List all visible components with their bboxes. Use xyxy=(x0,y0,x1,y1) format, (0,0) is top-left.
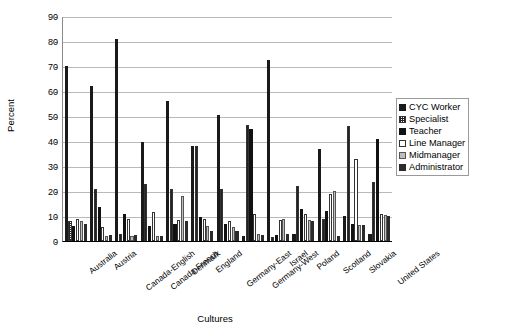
legend-swatch-icon xyxy=(399,140,406,147)
bar xyxy=(206,226,209,241)
plot-area xyxy=(62,17,392,242)
y-axis-title: Percent xyxy=(5,99,16,132)
bar xyxy=(80,221,83,241)
y-tick-mark xyxy=(55,167,58,168)
bar xyxy=(343,216,346,241)
bar xyxy=(134,235,137,241)
legend-label: Midmanager xyxy=(409,150,460,160)
bar xyxy=(228,221,231,241)
bar-group xyxy=(88,17,113,241)
legend-item: Line Manager xyxy=(399,137,465,149)
bar xyxy=(130,236,133,241)
bar xyxy=(318,149,321,242)
legend-swatch-icon xyxy=(399,116,406,123)
bar xyxy=(90,86,93,241)
bar xyxy=(271,237,274,241)
bar xyxy=(368,234,371,242)
y-tick-mark xyxy=(55,42,58,43)
bar xyxy=(286,234,289,242)
bar xyxy=(275,235,278,241)
bar xyxy=(232,227,235,241)
bar xyxy=(300,209,303,242)
bar-group xyxy=(164,17,189,241)
y-tick-mark xyxy=(55,17,58,18)
bar xyxy=(101,227,104,241)
bar xyxy=(105,236,108,241)
bar xyxy=(141,142,144,241)
bar-group xyxy=(240,17,265,241)
bar xyxy=(224,224,227,242)
x-axis-title: Cultures xyxy=(0,313,430,324)
bar xyxy=(354,159,357,242)
bar xyxy=(160,236,163,241)
bar xyxy=(387,216,390,241)
bar xyxy=(115,39,118,242)
legend-item: Midmanager xyxy=(399,149,465,161)
bar-group xyxy=(190,17,215,241)
bar xyxy=(308,220,311,241)
bar xyxy=(181,196,184,241)
bar-group xyxy=(291,17,316,241)
bar xyxy=(380,214,383,242)
bar xyxy=(152,212,155,241)
bar xyxy=(296,186,299,241)
bar xyxy=(292,234,295,242)
bar xyxy=(76,219,79,242)
legend-swatch-icon xyxy=(399,104,406,111)
bar xyxy=(253,214,256,242)
bar xyxy=(68,221,71,241)
bar xyxy=(217,115,220,241)
bar-group xyxy=(139,17,164,241)
y-axis-tick-labels: 0102030405060708090 xyxy=(28,17,58,242)
bar xyxy=(98,207,101,241)
bar xyxy=(173,224,176,242)
y-tick-mark xyxy=(55,67,58,68)
bar xyxy=(372,182,375,241)
legend-item: Administrator xyxy=(399,161,465,173)
bar-group xyxy=(341,17,366,241)
bar xyxy=(220,189,223,242)
bar-group xyxy=(266,17,291,241)
bar-group xyxy=(316,17,341,241)
bar xyxy=(109,235,112,241)
bar xyxy=(94,189,97,242)
bar xyxy=(362,225,365,241)
chart-container: Percent 0102030405060708090 AustraliaAus… xyxy=(0,0,519,332)
bar xyxy=(119,234,122,242)
bar xyxy=(384,215,387,241)
bar xyxy=(279,220,282,241)
chart-legend: CYC WorkerSpecialistTeacherLine ManagerM… xyxy=(396,98,469,176)
bar xyxy=(177,220,180,241)
bar xyxy=(199,217,202,241)
bar xyxy=(185,221,188,241)
bar xyxy=(242,236,245,241)
bar xyxy=(333,191,336,241)
y-tick-mark xyxy=(55,192,58,193)
bar xyxy=(267,60,270,241)
bar xyxy=(282,219,285,242)
bar xyxy=(249,129,252,242)
bar xyxy=(156,236,159,241)
legend-item: CYC Worker xyxy=(399,101,465,113)
bar xyxy=(72,226,75,241)
bar-group xyxy=(114,17,139,241)
bar xyxy=(376,139,379,242)
bar xyxy=(347,126,350,241)
y-tick-mark xyxy=(55,142,58,143)
bar xyxy=(235,231,238,241)
bar xyxy=(311,221,314,241)
bar xyxy=(351,224,354,242)
bar xyxy=(337,236,340,241)
bar xyxy=(166,101,169,241)
bar xyxy=(127,219,130,242)
x-tick-label: Scotland xyxy=(341,248,373,276)
bar xyxy=(325,211,328,241)
x-tick-label: Poland xyxy=(314,248,341,272)
bar xyxy=(246,125,249,241)
bar-group xyxy=(215,17,240,241)
bar xyxy=(210,231,213,241)
bar xyxy=(358,225,361,241)
y-tick-mark xyxy=(55,92,58,93)
bar xyxy=(144,184,147,242)
bar xyxy=(257,234,260,242)
